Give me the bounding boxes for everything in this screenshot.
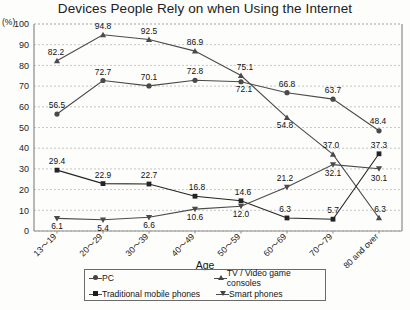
legend-item-traditional-mobile-phones[interactable]: Traditional mobile phones (85, 288, 213, 300)
data-point-label: 63.7 (325, 85, 342, 95)
y-axis-tick-label: 10 (19, 206, 29, 216)
data-point-marker (331, 217, 336, 222)
y-axis-tick-label: 80 (19, 61, 29, 71)
data-point-label: 32.1 (325, 168, 342, 178)
data-point-label: 48.4 (370, 116, 387, 126)
data-point-marker (101, 181, 106, 186)
data-point-marker (193, 194, 198, 199)
data-point-marker (192, 78, 197, 83)
data-point-label: 10.6 (187, 212, 204, 222)
chart-container: Devices People Rely on when Using the In… (0, 0, 410, 310)
data-point-marker (376, 128, 381, 133)
legend-item-tv[interactable]: TV / Video game consoles (211, 268, 325, 288)
data-point-label: 21.2 (277, 173, 294, 183)
legend-label-tv: TV / Video game consoles (227, 268, 325, 288)
data-point-label: 82.2 (48, 47, 65, 57)
data-point-marker (54, 58, 60, 64)
data-point-marker (239, 198, 244, 203)
data-point-label: 22.7 (141, 170, 158, 180)
series-line (57, 35, 379, 218)
data-point-label: 72.7 (95, 67, 112, 77)
x-axis-tick-label: 13～19 (31, 231, 58, 258)
y-axis-tick-label: 40 (19, 143, 29, 153)
data-point-label: 6.1 (51, 221, 63, 231)
data-point-label: 12.0 (233, 209, 250, 219)
y-axis-tick-label: 90 (19, 40, 29, 50)
y-axis-tick-label: 0 (24, 226, 29, 236)
data-point-label: 37.0 (323, 140, 340, 150)
data-point-marker (285, 216, 290, 221)
legend-label-traditional: Traditional mobile phones (102, 289, 200, 299)
data-point-label: 16.8 (189, 182, 206, 192)
data-point-label: 6.3 (279, 204, 291, 214)
data-point-label: 70.1 (141, 72, 158, 82)
legend-label-pc: PC (102, 273, 114, 283)
data-point-label: 5.7 (327, 205, 339, 215)
legend-label-smart: Smart phones (229, 289, 283, 299)
x-axis-tick-label: 20～29 (77, 231, 104, 258)
data-point-label: 6.3 (374, 204, 386, 214)
legend-marker-triangle-down-icon (216, 288, 229, 300)
data-point-marker (377, 151, 382, 156)
data-point-marker (238, 72, 244, 78)
legend-marker-circle-icon (89, 272, 102, 284)
data-point-marker (146, 83, 151, 88)
legend-marker-square-icon (89, 288, 102, 300)
data-point-label: 14.6 (235, 187, 252, 197)
data-point-label: 66.8 (279, 79, 296, 89)
legend-row-1: PC TV / Video game consoles (85, 270, 325, 286)
data-point-label: 30.1 (371, 173, 388, 183)
x-axis-tick-label: 50～59 (215, 231, 242, 258)
y-axis-tick-label: 30 (19, 164, 29, 174)
data-point-label: 72.1 (236, 84, 253, 94)
data-point-label: 54.8 (277, 120, 294, 130)
data-point-label: 75.1 (237, 62, 254, 72)
data-point-label: 56.5 (49, 100, 66, 110)
data-point-marker (284, 90, 289, 95)
data-point-label: 22.9 (95, 170, 112, 180)
y-axis-tick-label: 50 (19, 123, 29, 133)
x-axis-tick-label: 70～79 (307, 231, 334, 258)
data-point-label: 6.6 (143, 220, 155, 230)
data-point-label: 72.8 (187, 66, 204, 76)
y-axis-tick-label: 60 (19, 102, 29, 112)
data-point-label: 92.5 (141, 26, 158, 36)
data-point-label: 86.9 (187, 37, 204, 47)
data-point-marker (100, 32, 106, 38)
data-point-label: 29.4 (49, 156, 66, 166)
chart-legend: PC TV / Video game consoles Traditional … (84, 269, 326, 301)
y-axis-tick-label: 20 (19, 185, 29, 195)
data-point-marker (54, 111, 59, 116)
y-axis-tick-label: 100 (14, 19, 29, 29)
data-point-marker (147, 182, 152, 187)
legend-marker-triangle-up-icon (214, 272, 227, 284)
x-axis-tick-label: 40～49 (169, 231, 196, 258)
data-point-label: 37.3 (371, 140, 388, 150)
y-axis-tick-label: 70 (19, 81, 29, 91)
data-point-marker (55, 168, 60, 173)
legend-item-pc[interactable]: PC (85, 272, 211, 284)
data-point-marker (100, 78, 105, 83)
legend-row-2: Traditional mobile phones Smart phones (85, 286, 325, 302)
x-axis-tick-label: 60～69 (261, 231, 288, 258)
data-point-marker (330, 97, 335, 102)
x-axis-tick-label: 30～39 (123, 231, 150, 258)
data-point-label: 5.4 (97, 223, 109, 233)
legend-item-smart-phones[interactable]: Smart phones (213, 288, 283, 300)
data-point-label: 94.8 (95, 21, 112, 31)
